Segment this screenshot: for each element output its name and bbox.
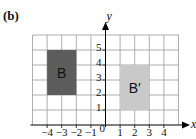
x-tick-label: −1 — [85, 126, 97, 138]
y-axis-arrow-icon — [102, 22, 109, 30]
figure-label: (b) — [3, 8, 19, 23]
x-axis-label: x — [190, 117, 196, 131]
y-tick-label: 3 — [96, 71, 102, 83]
y-tick-label: 5 — [96, 41, 102, 53]
y-tick-label: 2 — [96, 86, 102, 98]
shape-label-B: B — [57, 65, 66, 81]
y-tick-label: 4 — [96, 56, 102, 68]
x-tick-label: −4 — [41, 126, 53, 138]
x-tick-label: 2 — [132, 126, 138, 138]
y-axis-label: y — [106, 9, 113, 23]
coordinate-grid-figure: (b) BB′ x y 0 −4−3−2−1123412345 — [0, 0, 196, 139]
x-tick-label: 4 — [161, 126, 167, 138]
shape-label-B-prime: B′ — [129, 80, 141, 96]
x-tick-label: 1 — [117, 126, 123, 138]
y-tick-label: 1 — [96, 101, 102, 113]
origin-label: 0 — [100, 122, 106, 134]
x-axis-arrow-icon — [182, 122, 190, 129]
x-tick-label: 3 — [147, 126, 153, 138]
x-tick-label: −2 — [70, 126, 82, 138]
x-tick-label: −3 — [56, 126, 68, 138]
